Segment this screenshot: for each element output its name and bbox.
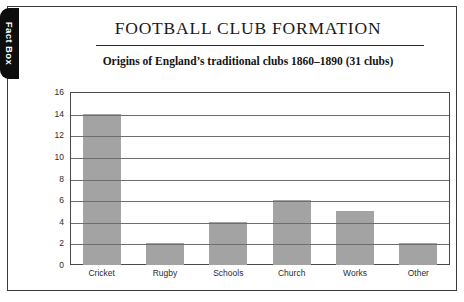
gridline: [71, 136, 449, 137]
gridline: [71, 244, 449, 245]
x-axis-label: Other: [383, 268, 453, 278]
bar: [399, 243, 437, 265]
gridline: [71, 158, 449, 159]
x-axis-label: Schools: [193, 268, 263, 278]
fact-box-tab[interactable]: Fact Box: [0, 8, 19, 79]
y-axis-tick-label: 12: [34, 130, 64, 140]
y-axis-tick-label: 14: [34, 109, 64, 119]
gridline: [71, 180, 449, 181]
gridline: [71, 201, 449, 202]
x-axis-label: Rugby: [130, 268, 200, 278]
y-axis-tick-label: 8: [34, 174, 64, 184]
y-axis-tick-label: 6: [34, 195, 64, 205]
fact-box-panel: FOOTBALL CLUB FORMATION Origins of Engla…: [7, 6, 457, 291]
fact-box-tab-label: Fact Box: [4, 22, 15, 65]
bar-chart: 0246810121416 CricketRugbySchoolsChurchW…: [8, 7, 464, 302]
x-axis-labels: CricketRugbySchoolsChurchWorksOther: [70, 268, 450, 284]
x-axis-label: Church: [257, 268, 327, 278]
y-axis-tick-label: 4: [34, 217, 64, 227]
bar-series: [70, 92, 450, 265]
bar: [146, 243, 184, 265]
x-axis-label: Cricket: [67, 268, 137, 278]
y-axis-tick-label: 0: [34, 260, 64, 270]
gridline: [71, 223, 449, 224]
y-axis-tick-label: 16: [34, 87, 64, 97]
bar: [209, 222, 247, 265]
bar: [336, 211, 374, 265]
bar: [273, 200, 311, 265]
y-axis-tick-label: 2: [34, 238, 64, 248]
gridline: [71, 115, 449, 116]
fact-box-tab-inner: Fact Box: [0, 8, 19, 79]
y-axis-tick-label: 10: [34, 152, 64, 162]
x-axis-label: Works: [320, 268, 390, 278]
y-axis-ticks: 0246810121416: [34, 92, 64, 265]
